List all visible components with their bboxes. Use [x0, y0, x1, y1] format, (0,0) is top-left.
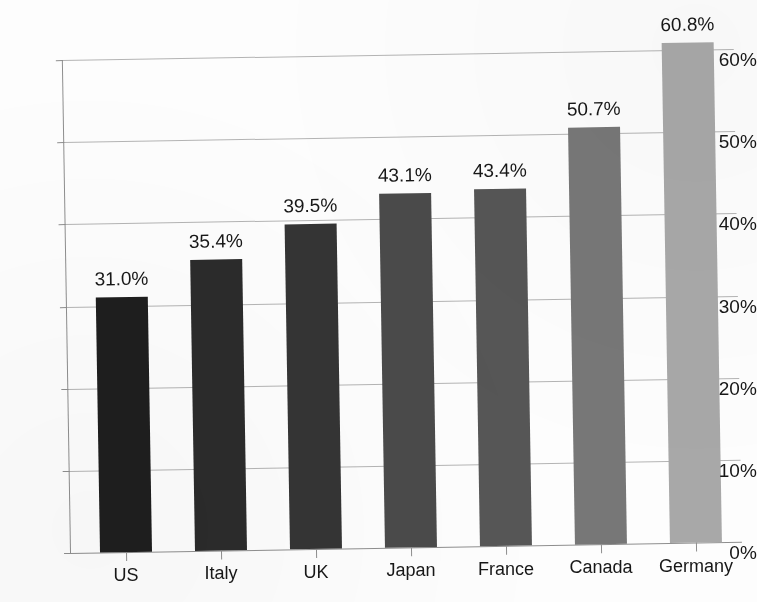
bar-value-label-germany: 60.8%: [627, 14, 747, 35]
chart-plot-skew-layer: 31.0%35.4%39.5%43.1%43.4%50.7%60.8%: [0, 0, 757, 602]
bars-area: 31.0%35.4%39.5%43.1%43.4%50.7%60.8%: [0, 0, 757, 554]
x-tick-mark-germany: [696, 543, 697, 552]
bar-italy[interactable]: 35.4%: [186, 0, 247, 551]
y-tick-mark: [64, 553, 71, 554]
bar-value-label-canada: 50.7%: [534, 99, 654, 120]
y-tick-label-60: 60%: [699, 50, 757, 69]
y-tick-label-50: 50%: [699, 132, 757, 151]
x-tick-mark-france: [506, 546, 507, 555]
bar-canada[interactable]: 50.7%: [566, 0, 627, 545]
bar-us[interactable]: 31.0%: [91, 0, 152, 553]
bar-value-label-us: 31.0%: [61, 268, 181, 289]
bar-france[interactable]: 43.4%: [471, 0, 532, 546]
y-tick-label-30: 30%: [699, 297, 757, 316]
x-tick-mark-us: [126, 552, 127, 561]
x-tick-mark-canada: [601, 544, 602, 553]
x-tick-mark-japan: [411, 547, 412, 556]
bar-rect: [568, 127, 627, 544]
bar-uk[interactable]: 39.5%: [281, 0, 342, 549]
bar-value-label-france: 43.4%: [440, 160, 560, 181]
bar-japan[interactable]: 43.1%: [376, 0, 437, 548]
y-tick-label-40: 40%: [699, 214, 757, 233]
y-tick-label-10: 10%: [699, 461, 757, 480]
bar-chart-figure: 31.0%35.4%39.5%43.1%43.4%50.7%60.8% 0%10…: [0, 0, 757, 602]
bar-rect: [190, 259, 247, 551]
bar-rect: [379, 193, 437, 548]
bar-value-label-uk: 39.5%: [250, 195, 370, 216]
bar-value-label-italy: 35.4%: [156, 231, 276, 252]
bar-rect: [96, 297, 152, 553]
x-tick-mark-uk: [316, 549, 317, 558]
x-axis-label-germany: Germany: [631, 556, 757, 576]
bar-rect: [474, 189, 532, 546]
x-tick-mark-italy: [221, 550, 222, 559]
bar-rect: [285, 224, 342, 549]
y-tick-label-20: 20%: [699, 379, 757, 398]
